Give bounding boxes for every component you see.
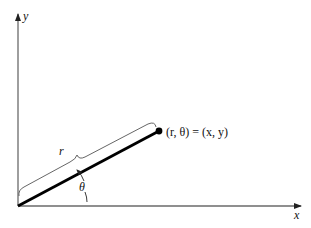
- radius-label: r: [59, 144, 64, 158]
- angle-tick: [85, 192, 87, 202]
- y-axis-label: y: [22, 9, 29, 23]
- radius-ray: [18, 131, 159, 206]
- point-marker: [156, 128, 163, 135]
- point-label: (r, θ) = (x, y): [166, 125, 228, 139]
- polar-coordinates-diagram: y x r θ (r, θ) = (x, y): [0, 0, 311, 228]
- x-axis-label: x: [293, 208, 300, 222]
- angle-label: θ: [79, 180, 85, 194]
- radius-brace: [19, 123, 156, 196]
